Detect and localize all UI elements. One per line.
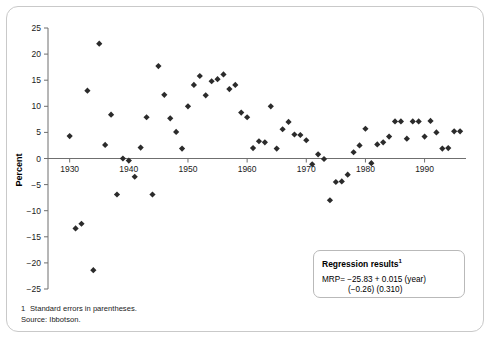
y-tick-label: 10 xyxy=(32,101,42,111)
data-point xyxy=(410,118,416,124)
data-point xyxy=(421,133,427,139)
regression-results-box: Regression results1 MRP= −25.83 + 0.015 … xyxy=(313,250,465,298)
regression-equation: MRP= −25.83 + 0.015 (year) xyxy=(322,275,456,285)
y-tick-label: −15 xyxy=(27,232,42,242)
data-point xyxy=(451,128,457,134)
data-point xyxy=(404,136,410,142)
footnote-source: Source: Ibbotson. xyxy=(21,315,321,326)
x-tick-label: 1990 xyxy=(415,164,434,174)
data-point xyxy=(362,126,368,132)
data-point xyxy=(297,132,303,138)
y-tick-label: 5 xyxy=(36,127,41,137)
data-point xyxy=(386,133,392,139)
data-point xyxy=(339,178,345,184)
data-point xyxy=(256,138,262,144)
data-point xyxy=(439,145,445,151)
data-point xyxy=(433,129,439,135)
data-point xyxy=(220,71,226,77)
data-point xyxy=(149,191,155,197)
data-point xyxy=(291,131,297,137)
data-point xyxy=(120,155,126,161)
x-axis: 1930194019501960197019801990 xyxy=(48,159,466,174)
data-point xyxy=(315,151,321,157)
data-point xyxy=(321,156,327,162)
data-point xyxy=(185,103,191,109)
data-point xyxy=(72,225,78,231)
data-point xyxy=(90,267,96,273)
data-point xyxy=(285,119,291,125)
data-point xyxy=(345,172,351,178)
data-point xyxy=(280,126,286,132)
data-point xyxy=(167,115,173,121)
data-point xyxy=(445,145,451,151)
data-point xyxy=(392,118,398,124)
y-tick-label: −25 xyxy=(27,284,42,294)
regression-title-text: Regression results xyxy=(322,259,399,269)
data-point xyxy=(84,88,90,94)
data-point xyxy=(327,197,333,203)
footnote-note: 1Standard errors in parentheses. xyxy=(21,304,321,315)
y-tick-label: 15 xyxy=(32,75,42,85)
data-point xyxy=(108,112,114,118)
x-tick-label: 1930 xyxy=(60,164,79,174)
data-point xyxy=(356,142,362,148)
y-tick-label: −10 xyxy=(27,206,42,216)
data-point xyxy=(78,221,84,227)
data-point xyxy=(161,92,167,98)
data-point xyxy=(203,92,209,98)
x-tick-label: 1950 xyxy=(179,164,198,174)
data-point xyxy=(351,149,357,155)
data-point xyxy=(155,63,161,69)
footnotes: 1Standard errors in parentheses. Source:… xyxy=(21,304,321,325)
data-point xyxy=(274,145,280,151)
data-markers xyxy=(67,41,464,274)
y-tick-label: 25 xyxy=(32,23,42,33)
figure-frame: 2520151050−5−10−15−20−25 193019401950196… xyxy=(6,6,484,332)
data-point xyxy=(138,144,144,150)
data-point xyxy=(197,73,203,79)
data-point xyxy=(333,179,339,185)
regression-results-title: Regression results1 xyxy=(322,256,456,270)
x-tick-label: 1940 xyxy=(119,164,138,174)
data-point xyxy=(427,118,433,124)
x-tick-label: 1960 xyxy=(238,164,257,174)
data-point xyxy=(416,118,422,124)
data-point xyxy=(214,76,220,82)
data-point xyxy=(132,174,138,180)
data-point xyxy=(250,145,256,151)
y-tick-label: −20 xyxy=(27,258,42,268)
regression-title-superscript: 1 xyxy=(399,258,402,264)
data-point xyxy=(374,141,380,147)
y-tick-label: 20 xyxy=(32,49,42,59)
data-point xyxy=(179,145,185,151)
footnote-marker: 1 xyxy=(21,304,30,315)
data-point xyxy=(303,137,309,143)
data-point xyxy=(238,109,244,115)
data-point xyxy=(143,114,149,120)
data-point xyxy=(191,82,197,88)
footnote-note-text: Standard errors in parentheses. xyxy=(30,304,137,313)
regression-standard-errors: (−0.26) (0.310) xyxy=(322,285,456,295)
data-point xyxy=(226,86,232,92)
data-point xyxy=(232,82,238,88)
y-tick-label: −5 xyxy=(31,180,41,190)
data-point xyxy=(96,41,102,47)
y-tick-label: 0 xyxy=(36,154,41,164)
data-point xyxy=(114,191,120,197)
data-point xyxy=(398,118,404,124)
data-point xyxy=(209,78,215,84)
data-point xyxy=(244,114,250,120)
data-point xyxy=(67,133,73,139)
data-point xyxy=(262,139,268,145)
y-axis: 2520151050−5−10−15−20−25 xyxy=(27,23,48,294)
data-point xyxy=(380,139,386,145)
data-point xyxy=(173,129,179,135)
y-axis-title: Percent xyxy=(14,153,24,186)
data-point xyxy=(102,142,108,148)
data-point xyxy=(457,128,463,134)
data-point xyxy=(268,103,274,109)
